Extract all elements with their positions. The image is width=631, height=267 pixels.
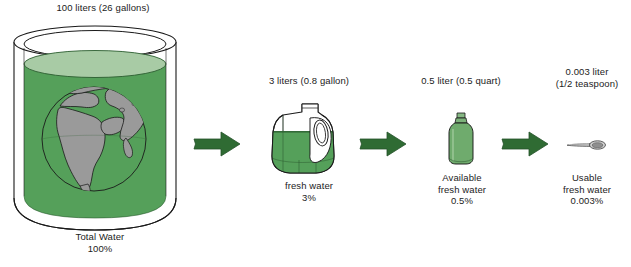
right-arrow-icon: [359, 131, 407, 157]
usable-fresh-water-caption-line-1: Usable: [543, 172, 631, 184]
cylinder-of-water-with-globe-icon: [6, 18, 186, 233]
available-fresh-water-caption: Available fresh water 0.5%: [419, 172, 505, 207]
water-bottle-icon: [444, 111, 478, 167]
available-fresh-water-caption-line-2: fresh water: [419, 184, 505, 196]
usable-fresh-water-volume-line-1: 0.003 liter: [543, 66, 631, 78]
right-arrow-icon: [193, 131, 241, 157]
usable-fresh-water-caption: Usable fresh water 0.003%: [543, 172, 631, 207]
total-water-caption: Total Water 100%: [30, 231, 170, 254]
available-fresh-water-percent: 0.5%: [419, 195, 505, 207]
fresh-water-caption: fresh water 3%: [262, 180, 356, 203]
right-arrow-icon: [501, 131, 549, 157]
usable-fresh-water-volume-line-2: (1/2 teaspoon): [543, 78, 631, 90]
fresh-water-caption-line-1: fresh water: [262, 180, 356, 192]
available-fresh-water-volume-label: 0.5 liter (0.5 quart): [409, 75, 513, 87]
teaspoon-icon: [566, 138, 608, 152]
water-jug-icon: [266, 100, 352, 176]
water-availability-diagram: 100 liters (26 gallons): [0, 0, 631, 267]
fresh-water-percent: 3%: [262, 192, 356, 204]
usable-fresh-water-caption-line-2: fresh water: [543, 184, 631, 196]
usable-fresh-water-volume-label: 0.003 liter (1/2 teaspoon): [543, 66, 631, 89]
available-fresh-water-caption-line-1: Available: [419, 172, 505, 184]
total-water-volume-label: 100 liters (26 gallons): [18, 2, 188, 14]
total-water-percent: 100%: [30, 243, 170, 255]
total-water-caption-line-1: Total Water: [30, 231, 170, 243]
usable-fresh-water-percent: 0.003%: [543, 195, 631, 207]
fresh-water-volume-label: 3 liters (0.8 gallon): [250, 75, 368, 87]
